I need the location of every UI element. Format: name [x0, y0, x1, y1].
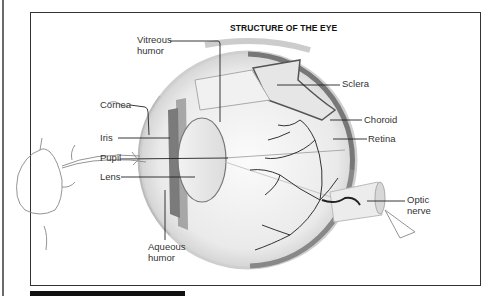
eye-illustration [0, 0, 491, 296]
label-iris: Iris [100, 132, 113, 143]
label-aqueous-humor: Aqueous humor [148, 241, 186, 263]
label-optic-line2: nerve [407, 205, 431, 216]
label-lens: Lens [100, 171, 121, 182]
label-aqueous-line1: Aqueous [148, 241, 186, 252]
label-vitreous-line2: humor [137, 45, 172, 56]
label-choroid: Choroid [364, 114, 397, 125]
label-aqueous-line2: humor [148, 252, 186, 263]
label-vitreous-line1: Vitreous [137, 34, 172, 45]
eyeball [139, 41, 385, 268]
label-retina: Retina [368, 133, 395, 144]
label-optic-nerve: Optic nerve [407, 194, 431, 216]
label-pupil: Pupil [100, 152, 121, 163]
label-vitreous-humor: Vitreous humor [137, 34, 172, 56]
label-cornea: Cornea [100, 99, 131, 110]
label-optic-line1: Optic [407, 194, 431, 205]
label-sclera: Sclera [342, 78, 369, 89]
bottom-black-bar [30, 291, 185, 296]
